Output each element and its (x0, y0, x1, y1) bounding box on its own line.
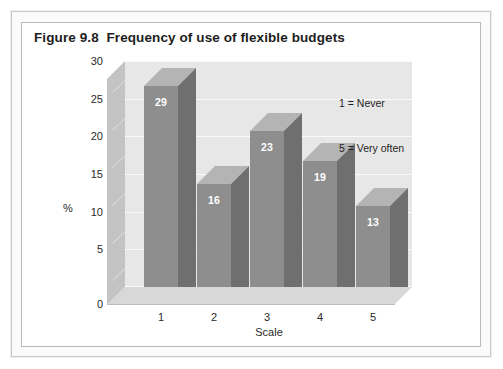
gridline-30 (125, 61, 412, 62)
y-tick-0: 0 (77, 298, 103, 310)
x-tick-5: 5 (353, 311, 393, 323)
bar-side-face-2 (231, 166, 249, 287)
y-tick-20: 20 (77, 130, 103, 142)
x-axis-label-wrap: Scale (21, 326, 481, 338)
legend: 1 = Never 5 = Very often (339, 66, 404, 186)
x-tick-2: 2 (194, 311, 234, 323)
bar-scale-4[interactable]: 19 (303, 143, 337, 287)
bar-chart: 30 25 20 15 10 5 0 % 29 16 23 (21, 22, 481, 347)
bar-value-5: 13 (356, 216, 390, 228)
plot-floor-front-edge (107, 304, 395, 305)
y-tick-10: 10 (77, 206, 103, 218)
y-tick-25: 25 (77, 93, 103, 105)
figure-page: Figure 9.8 Frequency of use of flexible … (0, 0, 503, 369)
bar-front-face-1 (144, 86, 178, 287)
y-tick-5: 5 (77, 243, 103, 255)
y-tick-30: 30 (77, 55, 103, 67)
bar-scale-1[interactable]: 29 (144, 68, 178, 287)
bar-scale-2[interactable]: 16 (197, 166, 231, 287)
bar-value-2: 16 (197, 194, 231, 206)
y-tick-15: 15 (77, 168, 103, 180)
x-tick-1: 1 (141, 311, 181, 323)
x-tick-4: 4 (300, 311, 340, 323)
legend-line-1: 1 = Never (339, 96, 404, 111)
x-axis-label: Scale (255, 326, 283, 338)
x-tick-3: 3 (247, 311, 287, 323)
plot-side-wall (107, 61, 125, 305)
bar-side-face-3 (284, 113, 302, 287)
plot-floor (107, 287, 412, 305)
bar-side-face-1 (178, 68, 196, 287)
bar-scale-5[interactable]: 13 (356, 188, 390, 287)
bar-scale-3[interactable]: 23 (250, 113, 284, 287)
legend-line-2: 5 = Very often (339, 141, 404, 156)
bar-front-face-3 (250, 131, 284, 287)
bar-value-4: 19 (303, 171, 337, 183)
y-axis-label: % (63, 202, 73, 214)
bar-value-3: 23 (250, 141, 284, 153)
bar-value-1: 29 (144, 96, 178, 108)
